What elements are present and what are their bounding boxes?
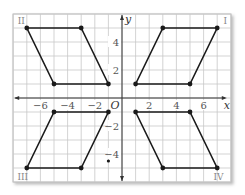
origin-label: O <box>110 99 119 112</box>
y-tick-label: −4 <box>104 149 119 160</box>
quadrant-label-IV: IV <box>214 172 225 182</box>
x-axis-label: x <box>224 99 231 112</box>
x-tick-label: 6 <box>200 100 206 111</box>
vertex-point <box>79 166 84 171</box>
vertex-point <box>133 110 138 115</box>
vertex-point <box>52 82 57 87</box>
vertex-point <box>106 82 111 87</box>
x-tick-label: 2 <box>146 100 152 111</box>
quadrant-label-I: I <box>224 16 228 26</box>
x-tick-label: −4 <box>60 100 75 111</box>
vertex-point <box>215 166 220 171</box>
vertex-point <box>160 166 165 171</box>
vertex-point <box>160 26 165 31</box>
vertex-point <box>133 82 138 87</box>
quadrant-label-II: II <box>18 16 26 26</box>
x-tick-label: −6 <box>33 100 48 111</box>
y-tick-label: 4 <box>113 37 119 48</box>
quadrant-label-III: III <box>17 172 28 182</box>
y-axis-label: y <box>124 13 132 26</box>
x-tick-label: 4 <box>173 100 179 111</box>
vertex-point <box>188 82 193 87</box>
vertex-point <box>24 166 29 171</box>
x-tick-label: −2 <box>87 100 102 111</box>
vertex-point <box>215 26 220 31</box>
coordinate-plane: −6−4−224642−2−4OxyIIIIIIIV <box>0 0 245 195</box>
y-tick-label: −2 <box>104 121 119 132</box>
vertex-point <box>188 110 193 115</box>
y-tick-label: 2 <box>113 65 119 76</box>
vertex-point <box>52 110 57 115</box>
vertex-point <box>79 26 84 31</box>
vertex-point <box>24 26 29 31</box>
